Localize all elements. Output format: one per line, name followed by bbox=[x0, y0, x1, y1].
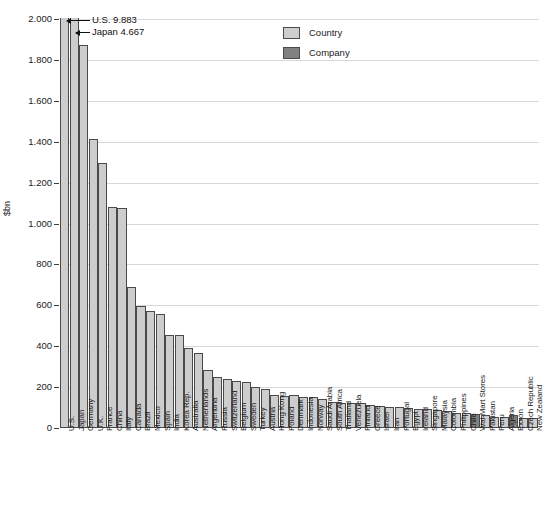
bar-u-s bbox=[60, 18, 69, 428]
x-tick-label: Saudi Arabia bbox=[326, 387, 334, 431]
x-tick-label: Greece bbox=[374, 405, 382, 431]
annotation-us: U.S. 9.883 bbox=[92, 14, 137, 25]
y-tick-mark bbox=[54, 428, 59, 429]
y-tick-mark bbox=[54, 346, 59, 347]
x-tick-label: Denmark bbox=[297, 399, 305, 431]
legend-swatch-company bbox=[283, 47, 300, 59]
bar-china bbox=[108, 207, 117, 428]
legend-label-country: Country bbox=[309, 27, 342, 38]
y-tick-mark bbox=[54, 101, 59, 102]
y-tick-label: 2.000 bbox=[10, 14, 52, 24]
x-tick-label: Pakistan bbox=[489, 401, 497, 431]
x-tick-label: Japan bbox=[78, 410, 86, 431]
x-tick-label: France bbox=[106, 407, 114, 431]
y-tick-label: 400 bbox=[10, 341, 52, 351]
x-tick-label: Hong Kong bbox=[278, 392, 286, 431]
bars-layer bbox=[60, 19, 538, 428]
x-tick-label: Netherlands bbox=[202, 389, 210, 431]
x-tick-label: Spain bbox=[164, 411, 172, 431]
bar-france bbox=[98, 163, 107, 428]
y-tick-mark bbox=[54, 19, 59, 20]
legend-item-company: Company bbox=[283, 44, 403, 61]
x-tick-label: New Zealand bbox=[536, 385, 544, 431]
x-tick-label: Exxon bbox=[517, 409, 525, 431]
y-tick-mark bbox=[54, 142, 59, 143]
x-tick-label: Finland bbox=[364, 405, 372, 431]
y-tick-label: 200 bbox=[10, 382, 52, 392]
y-tick-label: 1.600 bbox=[10, 96, 52, 106]
y-tick-label: 800 bbox=[10, 259, 52, 269]
y-tick-label: 1.400 bbox=[10, 137, 52, 147]
legend-swatch-country bbox=[283, 27, 300, 39]
x-tick-label: Czech Republic bbox=[527, 376, 535, 431]
bar-u-k bbox=[89, 139, 98, 428]
x-tick-label: Belgium bbox=[240, 403, 248, 431]
x-tick-label: Venezuela bbox=[355, 395, 363, 431]
x-axis-labels: U.S.JapanGermanyU.K.FranceChinaItalyCana… bbox=[60, 431, 538, 523]
bar-italy bbox=[117, 208, 126, 428]
legend-item-country: Country bbox=[283, 24, 403, 41]
x-tick-label: Turkey bbox=[259, 407, 267, 431]
bar-japan bbox=[70, 18, 79, 428]
x-tick-label: Norway bbox=[317, 404, 325, 431]
y-tick-mark bbox=[54, 60, 59, 61]
x-tick-label: Argentina bbox=[211, 398, 219, 431]
y-tick-mark bbox=[54, 183, 59, 184]
x-tick-label: Portugal bbox=[403, 402, 411, 431]
x-tick-label: Brazil bbox=[144, 412, 152, 431]
x-tick-label: Colombia bbox=[450, 398, 458, 431]
x-tick-label: Switzerland bbox=[231, 391, 239, 431]
y-tick-label: 1.000 bbox=[10, 219, 52, 229]
x-tick-label: Iran bbox=[393, 418, 401, 431]
x-tick-label: Mexico bbox=[154, 406, 162, 431]
y-tick-label: 1.200 bbox=[10, 178, 52, 188]
x-tick-label: Ireland bbox=[422, 407, 430, 431]
y-tick-label: 600 bbox=[10, 300, 52, 310]
bar-germany bbox=[79, 45, 88, 428]
x-tick-label: Thailand bbox=[345, 401, 353, 431]
y-tick-mark bbox=[54, 387, 59, 388]
x-tick-label: Russia bbox=[221, 407, 229, 431]
x-tick-label: Indonesia bbox=[307, 397, 315, 431]
y-tick-mark bbox=[54, 305, 59, 306]
x-tick-label: Philippines bbox=[460, 393, 468, 431]
x-tick-label: Peru bbox=[498, 415, 506, 432]
annotation-us-arrow bbox=[67, 20, 90, 21]
x-tick-label: Canada bbox=[135, 404, 143, 431]
x-tick-label: Korea Rep. bbox=[183, 392, 191, 431]
y-tick-label: 0 bbox=[10, 423, 52, 433]
x-tick-label: U.K. bbox=[97, 416, 105, 431]
x-tick-label: Malaysia bbox=[441, 400, 449, 431]
x-tick-label: Germany bbox=[87, 399, 95, 431]
x-tick-label: South Africa bbox=[336, 389, 344, 431]
x-tick-label: Australia bbox=[192, 401, 200, 431]
annotation-japan: Japan 4.667 bbox=[92, 26, 144, 37]
x-tick-label: Italy bbox=[125, 417, 133, 431]
y-tick-mark bbox=[54, 264, 59, 265]
x-tick-label: Sweden bbox=[250, 403, 258, 431]
x-tick-label: China bbox=[116, 411, 124, 431]
x-tick-label: Poland bbox=[288, 407, 296, 431]
x-tick-label: Israel bbox=[383, 412, 391, 431]
annotation-japan-arrow bbox=[76, 32, 90, 33]
legend: Country Company bbox=[283, 24, 403, 64]
y-axis-ticks: 02004006008001.0001.2001.4001.6001.8002.… bbox=[0, 0, 52, 523]
y-tick-label: 1.800 bbox=[10, 55, 52, 65]
legend-label-company: Company bbox=[309, 47, 350, 58]
x-tick-label: U.S. bbox=[68, 416, 76, 431]
x-tick-label: Austria bbox=[269, 407, 277, 431]
x-tick-label: Algeria bbox=[508, 407, 516, 431]
x-tick-label: Wal-Mart Stores bbox=[479, 375, 487, 431]
x-tick-label: India bbox=[173, 414, 181, 431]
bar-chart: $bn 02004006008001.0001.2001.4001.6001.8… bbox=[0, 0, 558, 523]
x-tick-label: Chile bbox=[470, 413, 478, 431]
y-tick-mark bbox=[54, 224, 59, 225]
x-tick-label: Singapore bbox=[431, 395, 439, 431]
x-tick-label: Egypt bbox=[412, 411, 420, 431]
